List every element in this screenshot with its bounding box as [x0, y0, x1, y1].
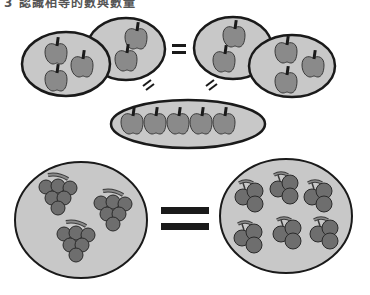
grape-group-right — [220, 159, 352, 273]
apple-group-left-front — [22, 32, 110, 96]
diagram-canvas — [0, 0, 370, 295]
grape-group-left — [15, 162, 147, 278]
relation-mark-left — [143, 80, 154, 90]
apple-group-combined — [111, 100, 265, 148]
apple-group-right-front — [249, 35, 335, 97]
relation-mark-right — [206, 80, 217, 90]
equals-sign-top — [172, 44, 186, 54]
equals-sign-bottom — [161, 207, 209, 230]
